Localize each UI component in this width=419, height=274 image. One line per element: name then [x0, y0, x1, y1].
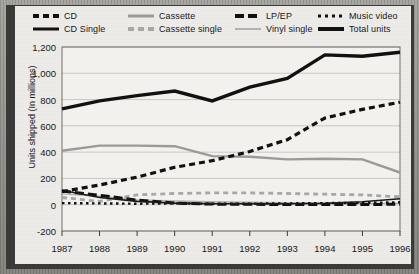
x-tick-label: 1990: [164, 243, 185, 254]
x-tick-label: 1995: [352, 243, 373, 254]
x-tick-label: 1992: [239, 243, 260, 254]
plot-area: [0, 0, 419, 274]
x-tick-label: 1987: [51, 243, 72, 254]
x-tick-label: 1991: [202, 243, 223, 254]
x-tick-label: 1993: [277, 243, 298, 254]
chart-screenshot: CDCassetteLP/EPMusic video CD SingleCass…: [0, 0, 419, 274]
x-tick-labels: 1987198819891990199119921993199419951996: [0, 243, 419, 259]
x-tick-label: 1988: [89, 243, 110, 254]
x-tick-label: 1994: [314, 243, 335, 254]
x-tick-label: 1996: [389, 243, 410, 254]
x-tick-label: 1989: [127, 243, 148, 254]
